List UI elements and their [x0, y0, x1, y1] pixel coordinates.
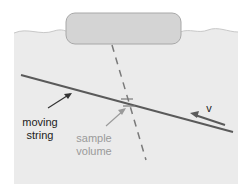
- sample-volume-label-line2: volume: [74, 145, 114, 158]
- moving-string-label-line2: string: [20, 129, 60, 142]
- moving-string-label-line1: moving: [20, 116, 60, 129]
- sample-volume-label: sample volume: [74, 132, 114, 158]
- velocity-label: v: [203, 102, 215, 115]
- sample-volume-label-line1: sample: [74, 132, 114, 145]
- moving-string-label: moving string: [20, 116, 60, 142]
- transducer-probe: [66, 13, 181, 44]
- diagram-canvas: [0, 0, 248, 196]
